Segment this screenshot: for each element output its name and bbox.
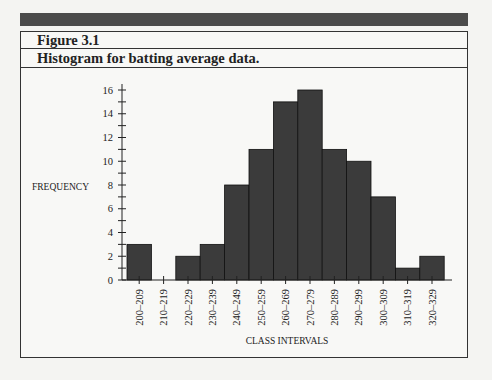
y-tick-label: 2 — [108, 251, 113, 262]
x-tick-label: 280–289 — [329, 289, 340, 326]
x-tick-label: 200–209 — [134, 289, 145, 326]
bar-230–239 — [200, 244, 224, 280]
bar-240–249 — [225, 185, 249, 280]
x-tick-label: 250–259 — [256, 289, 267, 326]
x-tick-label: 260–269 — [280, 289, 291, 326]
x-tick-label: 230–239 — [207, 289, 218, 326]
x-axis-title: CLASS INTERVALS — [246, 336, 329, 346]
x-tick-label: 220–229 — [183, 289, 194, 326]
x-tick-label: 310–319 — [402, 289, 413, 326]
y-axis: 0246810121416 — [103, 84, 127, 286]
bar-280–289 — [322, 149, 346, 280]
y-tick-label: 4 — [108, 227, 114, 238]
y-axis-title: FREQUENCY — [32, 182, 89, 192]
bar-300–309 — [371, 197, 395, 280]
y-tick-label: 12 — [103, 132, 114, 143]
x-tick-label: 320–329 — [427, 289, 438, 326]
y-tick-label: 0 — [108, 275, 113, 286]
y-tick-label: 8 — [108, 180, 113, 191]
x-tick-label: 300–309 — [378, 289, 389, 326]
x-tick-label: 270–279 — [305, 289, 316, 326]
histogram-chart: 0246810121416 200–209210–219220–229230–2… — [0, 0, 492, 380]
bar-250–259 — [249, 149, 273, 280]
histogram-bars — [127, 90, 444, 280]
x-tick-label: 240–249 — [231, 289, 242, 326]
y-tick-label: 6 — [108, 203, 113, 214]
x-tick-label: 290–299 — [353, 289, 364, 326]
x-axis: 200–209210–219220–229230–239240–249250–2… — [122, 276, 452, 326]
bar-290–299 — [347, 161, 371, 280]
bar-260–269 — [273, 102, 297, 280]
bar-200–209 — [127, 244, 151, 280]
y-tick-label: 14 — [103, 108, 114, 119]
y-tick-label: 10 — [103, 156, 114, 167]
y-tick-label: 16 — [103, 85, 114, 96]
bar-270–279 — [298, 90, 322, 280]
x-tick-label: 210–219 — [158, 289, 169, 326]
